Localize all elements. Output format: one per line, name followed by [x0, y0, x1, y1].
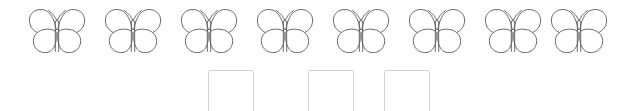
butterfly-icon	[175, 5, 243, 57]
sum-input[interactable]	[384, 70, 430, 111]
butterfly-icon	[23, 5, 91, 57]
butterfly-icon	[327, 5, 395, 57]
butterfly-icon	[99, 5, 167, 57]
butterfly-icon	[545, 5, 613, 57]
worksheet-canvas: add =	[0, 0, 630, 111]
second-addend-input[interactable]	[308, 70, 354, 111]
butterfly-icon	[251, 5, 319, 57]
first-addend-input[interactable]	[208, 70, 254, 111]
butterfly-icon	[479, 5, 547, 57]
butterfly-icon	[403, 5, 471, 57]
butterfly-object-row	[0, 0, 630, 62]
addition-equation-row: add =	[0, 62, 630, 111]
